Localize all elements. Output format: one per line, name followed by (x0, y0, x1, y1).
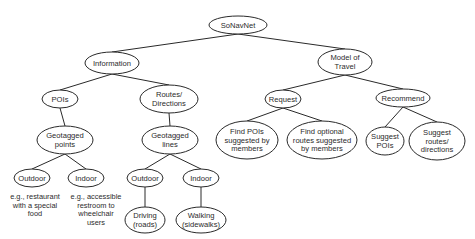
edge-pois-to-geotagged-points (60, 108, 65, 126)
node-label: Outdoor (131, 174, 159, 183)
node-sonavnet: SoNavNet (209, 16, 267, 34)
node-pois: POIs (42, 90, 78, 108)
edge-geotagged-points-to-outdoor-points (32, 154, 65, 169)
node-label: Information (93, 59, 131, 68)
sonavnet-tree-diagram: SoNavNetInformationModel ofTravelPOIsRou… (0, 0, 475, 239)
node-label: POIs (377, 141, 394, 150)
node-model-of-travel: Model ofTravel (318, 49, 372, 75)
node-indoor-lines: Indoor (183, 169, 219, 187)
node-label: Indoor (190, 174, 212, 183)
edge-request-to-find-routes (283, 108, 322, 121)
node-label: POIs (52, 95, 69, 104)
node-request: Request (265, 90, 301, 108)
node-routes-directions: Routes/Directions (140, 85, 198, 113)
edge-request-to-find-pois (247, 108, 283, 121)
edge-recommend-to-suggest-routes (403, 107, 437, 122)
node-find-routes: Find optionalroutes suggestedby members (287, 121, 357, 159)
node-label: directions (421, 145, 454, 154)
node-indoor-points: Indoor (68, 169, 104, 187)
node-label: Outdoor (18, 174, 46, 183)
diagram-captions: e.g., restaurantwith a specialfoode.g., … (10, 192, 121, 227)
caption-line: users (87, 218, 105, 227)
edge-routes-directions-to-geotagged-lines (169, 113, 170, 126)
node-outdoor-points: Outdoor (14, 169, 50, 187)
node-geotagged-points: Geotaggedpoints (37, 126, 93, 154)
edge-geotagged-lines-to-indoor-lines (170, 154, 201, 169)
node-label: by members (301, 144, 343, 153)
caption-outdoor-example: e.g., restaurantwith a specialfood (10, 192, 60, 218)
node-find-pois: Find POIssuggested bymembers (216, 121, 278, 159)
node-information: Information (85, 52, 139, 74)
caption-line: food (28, 209, 42, 218)
node-driving: Driving(roads) (125, 207, 165, 233)
node-suggest-pois: SuggestPOIs (366, 127, 404, 155)
node-recommend: Recommend (376, 89, 430, 107)
node-suggest-routes: Suggestroutes/directions (409, 122, 465, 160)
node-label: Request (269, 95, 298, 104)
node-label: SoNavNet (221, 21, 256, 30)
edge-model-of-travel-to-recommend (345, 75, 403, 89)
node-outdoor-lines: Outdoor (127, 169, 163, 187)
edge-sonavnet-to-information (112, 34, 238, 52)
edge-geotagged-points-to-indoor-points (65, 154, 86, 169)
node-label: Directions (152, 99, 186, 108)
node-label: Indoor (75, 174, 97, 183)
node-label: (roads) (133, 220, 158, 229)
edge-sonavnet-to-model-of-travel (238, 34, 345, 49)
caption-indoor-example: e.g., accessiblerestroom towheelchairuse… (71, 192, 122, 227)
node-label: lines (162, 140, 178, 149)
node-label: Travel (335, 62, 356, 71)
node-geotagged-lines: Geotaggedlines (142, 126, 198, 154)
node-label: Recommend (381, 94, 424, 103)
edge-recommend-to-suggest-pois (385, 107, 403, 127)
node-walking: Walking(sidewalks) (176, 207, 226, 233)
edge-geotagged-lines-to-outdoor-lines (145, 154, 170, 169)
node-label: members (231, 144, 263, 153)
node-label: points (55, 140, 75, 149)
edge-information-to-pois (60, 74, 112, 90)
edge-information-to-routes-directions (112, 74, 169, 85)
edge-model-of-travel-to-request (283, 75, 345, 90)
node-label: (sidewalks) (182, 220, 220, 229)
